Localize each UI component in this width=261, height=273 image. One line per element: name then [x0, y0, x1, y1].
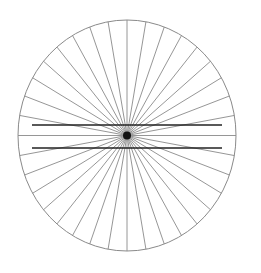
center-convergence-point [123, 132, 131, 140]
hering-illusion-figure [0, 0, 261, 273]
